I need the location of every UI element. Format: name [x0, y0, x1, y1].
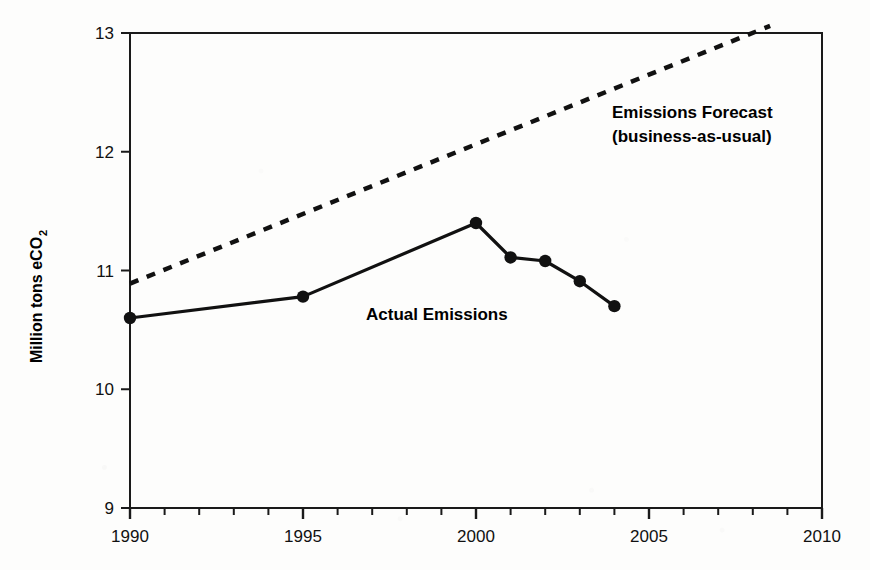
forecast-dotted-line [130, 26, 770, 284]
y-tick-label-13: 13 [95, 24, 114, 43]
y-tick-label-12: 12 [95, 143, 114, 162]
x-tick-label-1995: 1995 [284, 527, 322, 546]
chart-page: 910111213 19901995200020052010 Million t… [0, 0, 870, 570]
x-tick-label-2005: 2005 [630, 527, 668, 546]
y-axis-ticks [121, 33, 130, 508]
series-emissions-forecast [130, 26, 770, 284]
y-tick-label-11: 11 [96, 262, 114, 281]
x-tick-label-1990: 1990 [111, 527, 149, 546]
forecast-annotation-line2: (business-as-usual) [612, 127, 772, 146]
y-tick-label-10: 10 [95, 380, 114, 399]
data-point-1990 [124, 312, 136, 324]
data-point-1995 [297, 290, 309, 302]
actual-annotation-label: Actual Emissions [366, 305, 508, 324]
actual-solid-line [130, 223, 614, 318]
data-point-2001 [504, 251, 516, 263]
emissions-line-chart: 910111213 19901995200020052010 Million t… [0, 0, 870, 570]
y-axis-title-main: Million tons eCO [28, 237, 45, 363]
data-point-2003 [574, 275, 586, 287]
x-axis-tick-labels: 19901995200020052010 [111, 527, 841, 546]
y-axis-tick-labels: 910111213 [95, 24, 114, 518]
x-tick-label-2010: 2010 [803, 527, 841, 546]
y-axis-title: Million tons eCO 2 [28, 230, 49, 363]
y-tick-label-9: 9 [105, 499, 114, 518]
actual-emissions-annotation: Actual Emissions [366, 305, 508, 324]
data-point-2002 [539, 255, 551, 267]
forecast-annotation-line1: Emissions Forecast [612, 103, 773, 122]
x-tick-label-2000: 2000 [457, 527, 495, 546]
data-point-2000 [470, 217, 482, 229]
data-point-2004 [608, 300, 620, 312]
y-axis-title-subscript: 2 [37, 230, 49, 236]
forecast-annotation: Emissions Forecast (business-as-usual) [612, 103, 773, 146]
